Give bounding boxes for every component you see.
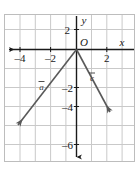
y-tick-label-minus6: –6 [61, 139, 74, 151]
vector-c-label-text: c [90, 73, 94, 83]
x-tick-label-2: 2 [104, 52, 110, 64]
vector-a-label: a [39, 82, 45, 93]
origin-label: O [80, 36, 88, 48]
vector-a-label-text: a [39, 82, 44, 92]
x-tick-label-minus4: –4 [14, 52, 27, 64]
y-tick-label-2: 2 [65, 24, 71, 36]
y-tick-label-minus4: –4 [61, 101, 74, 113]
x-tick-label-minus2: –2 [44, 52, 56, 64]
y-tick-label-minus2: –2 [61, 82, 73, 94]
vector-diagram-figure: –4 –2 2 2 –2 –4 –6 x y O a c [0, 0, 139, 169]
x-axis-label: x [119, 36, 125, 48]
y-axis-label: y [81, 14, 87, 26]
coordinate-plane-chart: –4 –2 2 2 –2 –4 –6 x y O a c [0, 0, 139, 169]
